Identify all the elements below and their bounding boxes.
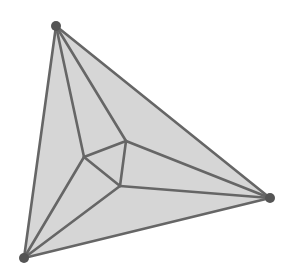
graph-diagram <box>0 0 299 279</box>
vertex-top <box>51 21 61 31</box>
outer-triangle-fill <box>24 26 270 258</box>
vertex-right <box>265 193 275 203</box>
vertex-bottom-left <box>19 253 29 263</box>
